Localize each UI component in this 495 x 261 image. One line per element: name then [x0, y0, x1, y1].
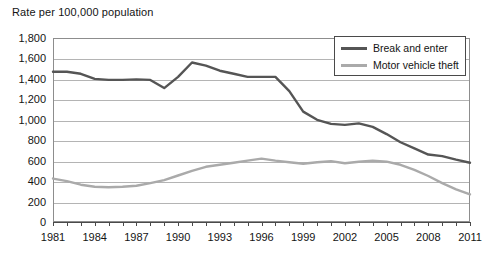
x-axis-tickmark: [206, 222, 207, 226]
x-axis-tickmark: [178, 222, 179, 226]
x-axis-tick-label: 1999: [291, 232, 315, 243]
x-axis-tickmark: [331, 222, 332, 226]
x-axis-tickmark: [81, 222, 82, 226]
x-axis-tick-label: 2002: [333, 232, 357, 243]
x-axis-tickmark: [428, 222, 429, 226]
x-axis-tick-label: 2011: [458, 232, 482, 243]
legend-item-motor-vehicle-theft: Motor vehicle theft: [341, 57, 459, 73]
legend-swatch-break-and-enter: [341, 47, 367, 50]
x-axis-tickmark: [123, 222, 124, 226]
x-axis-tickmark: [67, 222, 68, 226]
x-axis-tickmark: [317, 222, 318, 226]
x-axis-tickmark: [234, 222, 235, 226]
x-axis-tickmark: [220, 222, 221, 226]
x-axis-tickmark: [109, 222, 110, 226]
x-axis-tick-label: 1984: [82, 232, 106, 243]
x-axis-tick-label: 1987: [124, 232, 148, 243]
x-axis-tickmark: [95, 222, 96, 226]
x-axis-tickmark: [456, 222, 457, 226]
x-axis-tickmark: [470, 222, 471, 226]
x-axis-tick-label: 1993: [208, 232, 232, 243]
legend-swatch-motor-vehicle-theft: [341, 64, 367, 67]
x-axis-tickmark: [414, 222, 415, 226]
x-axis-tickmark: [164, 222, 165, 226]
x-axis-tickmark: [248, 222, 249, 226]
x-axis-tickmark: [262, 222, 263, 226]
chart-legend: Break and enter Motor vehicle theft: [334, 36, 466, 76]
x-axis-tickmark: [387, 222, 388, 226]
x-axis-tickmark: [373, 222, 374, 226]
line-chart: Rate per 100,000 population 020040060080…: [0, 0, 495, 261]
x-axis-tickmark: [136, 222, 137, 226]
legend-item-break-and-enter: Break and enter: [341, 40, 448, 56]
x-axis-tick-label: 2008: [416, 232, 440, 243]
x-axis-tickmark: [289, 222, 290, 226]
x-axis-tickmark: [401, 222, 402, 226]
x-axis-tickmark: [275, 222, 276, 226]
x-axis-tickmark: [303, 222, 304, 226]
x-axis-tickmark: [53, 222, 54, 226]
x-axis-tickmark: [359, 222, 360, 226]
x-axis-tickmark: [192, 222, 193, 226]
x-axis-tick-label: 1996: [249, 232, 273, 243]
x-axis-tickmark: [150, 222, 151, 226]
x-axis-tick-label: 2005: [374, 232, 398, 243]
legend-label-break-and-enter: Break and enter: [373, 42, 448, 54]
x-axis-tick-label: 1990: [166, 232, 190, 243]
x-axis-tickmark: [442, 222, 443, 226]
legend-label-motor-vehicle-theft: Motor vehicle theft: [373, 59, 459, 71]
x-axis-tickmark: [345, 222, 346, 226]
x-axis-tick-label: 1981: [41, 232, 65, 243]
